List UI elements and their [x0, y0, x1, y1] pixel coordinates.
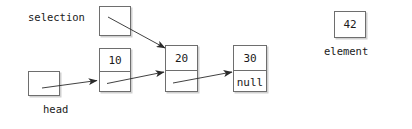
head-label: head — [43, 104, 68, 115]
node-10-next — [100, 72, 130, 93]
element-value: 42 — [335, 12, 365, 37]
diagram-canvas: selection head 10 20 30 null 42 element — [0, 0, 412, 129]
node-10[interactable]: 10 — [99, 48, 131, 92]
node-10-value: 10 — [100, 49, 130, 71]
element-label: element — [324, 46, 368, 57]
node-30-value: 30 — [234, 46, 266, 70]
element-value-box[interactable]: 42 — [334, 11, 366, 38]
selection-pointer-value — [100, 7, 130, 35]
node-30-next: null — [234, 71, 266, 93]
node-20-value: 20 — [166, 46, 197, 70]
selection-pointer-box[interactable] — [99, 6, 131, 36]
node-20-next — [166, 71, 197, 93]
head-pointer-box[interactable] — [28, 71, 60, 96]
node-20[interactable]: 20 — [165, 45, 198, 92]
node-30[interactable]: 30 null — [233, 45, 267, 92]
selection-label: selection — [28, 12, 85, 23]
head-pointer-value — [29, 72, 59, 95]
